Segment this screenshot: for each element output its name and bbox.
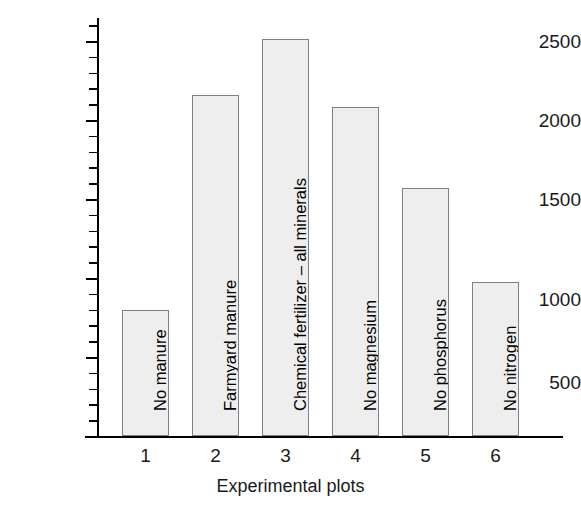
y-tick-label-1000: 1000 (511, 290, 581, 309)
y-tick-minor-800 (89, 310, 97, 312)
y-tick-minor-2600 (89, 25, 97, 27)
y-axis-line (97, 18, 99, 438)
x-tick-label-1: 1 (122, 446, 169, 465)
bar-plot-4[interactable]: No magnesium (332, 107, 379, 436)
y-tick-major-2500 (86, 41, 97, 43)
y-tick-major-1500 (86, 199, 97, 201)
y-tick-minor-300 (89, 389, 97, 391)
y-tick-minor-700 (89, 325, 97, 327)
bar-label-5: No phosphorus (432, 300, 449, 412)
y-tick-label-1500: 1500 (511, 190, 581, 209)
bar-label-4: No magnesium (362, 301, 379, 412)
y-axis-title: Yield (kg per hectare) (0, 0, 34, 513)
y-tick-minor-400 (89, 373, 97, 375)
y-tick-label-2500: 2500 (511, 32, 581, 51)
y-tick-minor-200 (89, 404, 97, 406)
y-tick-major-1000 (86, 278, 97, 280)
y-tick-minor-1900 (89, 136, 97, 138)
bar-plot-5[interactable]: No phosphorus (402, 188, 449, 436)
y-tick-minor-100 (89, 420, 97, 422)
bar-plot-2[interactable]: Farmyard manure (192, 95, 239, 436)
y-tick-minor-2300 (89, 73, 97, 75)
bar-chart: Yield (kg per hectare) 2500 2000 1500 10… (0, 0, 581, 513)
y-tick-minor-1200 (89, 246, 97, 248)
y-tick-minor-2400 (89, 57, 97, 59)
y-tick-minor-1400 (89, 215, 97, 217)
y-tick-minor-1100 (89, 262, 97, 264)
y-tick-major-2000 (86, 120, 97, 122)
x-tick-label-6: 6 (472, 446, 519, 465)
y-tick-minor-1300 (89, 231, 97, 233)
y-tick-minor-2200 (89, 88, 97, 90)
bar-plot-3[interactable]: Chemical fertilizer – all minerals (262, 39, 309, 436)
bar-plot-6[interactable]: No nitrogen (472, 282, 519, 436)
x-axis-title: Experimental plots (0, 476, 581, 497)
y-tick-minor-600 (89, 341, 97, 343)
y-tick-minor-2100 (89, 104, 97, 106)
y-tick-minor-900 (89, 294, 97, 296)
x-tick-label-5: 5 (402, 446, 449, 465)
x-axis-line (85, 436, 563, 438)
x-tick-label-2: 2 (192, 446, 239, 465)
bar-label-3: Chemical fertilizer – all minerals (292, 179, 309, 412)
bar-label-2: Farmyard manure (222, 280, 239, 411)
bar-plot-1[interactable]: No manure (122, 310, 169, 436)
x-tick-label-4: 4 (332, 446, 379, 465)
x-tick-label-3: 3 (262, 446, 309, 465)
bar-label-1: No manure (152, 330, 169, 412)
y-tick-label-500: 500 (511, 373, 581, 392)
bar-label-6: No nitrogen (502, 326, 519, 411)
y-tick-minor-1800 (89, 152, 97, 154)
y-tick-major-500 (86, 357, 97, 359)
y-tick-minor-1600 (89, 183, 97, 185)
y-tick-label-2000: 2000 (511, 111, 581, 130)
y-tick-minor-1700 (89, 167, 97, 169)
